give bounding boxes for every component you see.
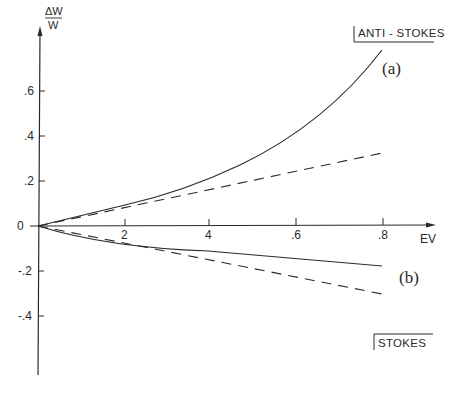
anti-stokes-label: ANTI - STOKES [358, 27, 445, 39]
y-tick-label: .4 [24, 129, 34, 143]
x-tick-label: .6 [291, 228, 301, 242]
y-tick-label: .6 [24, 84, 34, 98]
x-tick-label: 4 [205, 228, 212, 242]
y-axis-arrow-icon [38, 26, 43, 36]
y-axis-label-denominator: W [48, 19, 59, 31]
stokes-label: STOKES [378, 337, 426, 349]
y-tick-label-zero: 0 [17, 219, 24, 233]
curve-a-dashed [38, 153, 382, 226]
stokes-label-box: STOKES [374, 334, 433, 350]
chart-canvas: ΔW W .6 .4 .2 0 -.2 -.4 2 4 .6 .8 EV (a)… [0, 0, 453, 415]
y-axis-label-numerator: ΔW [45, 5, 63, 17]
x-tick-label: .8 [378, 228, 388, 242]
x-axis-label: EV [420, 232, 436, 246]
curve-a-label: (a) [382, 59, 401, 78]
x-axis-arrow-icon [426, 223, 436, 228]
x-axis [30, 225, 432, 226]
y-tick-label: -.4 [18, 309, 32, 323]
curve-b-label: (b) [399, 268, 419, 287]
x-tick-label: 2 [121, 228, 128, 242]
y-tick-label: .2 [24, 174, 34, 188]
curve-a-solid [38, 50, 382, 226]
y-axis [38, 30, 40, 375]
y-tick-label: -.2 [18, 264, 32, 278]
anti-stokes-label-box: ANTI - STOKES [354, 26, 445, 42]
